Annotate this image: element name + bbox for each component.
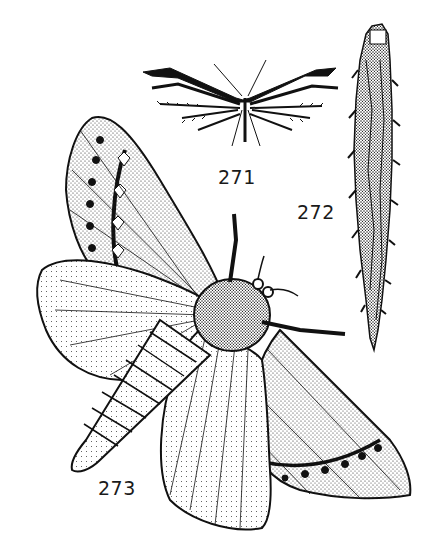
figure-label-273: 273: [98, 479, 136, 498]
figure-label-272: 272: [297, 203, 335, 222]
figure-271-plume-moth: [143, 60, 338, 146]
figure-272-larva: [348, 24, 400, 350]
illustration-plate: 271 272 273: [0, 0, 434, 556]
moth-plate-drawing: [0, 0, 434, 556]
figure-label-271: 271: [218, 168, 256, 187]
